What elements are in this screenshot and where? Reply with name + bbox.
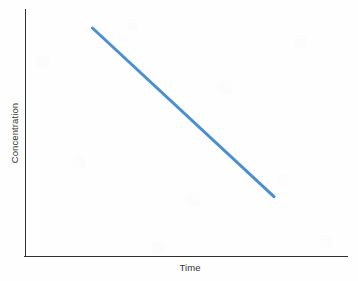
y-axis-label: Concentration	[9, 103, 20, 163]
x-axis-label: Time	[0, 262, 358, 273]
plot-area	[0, 0, 358, 281]
data-line-concentration	[92, 28, 274, 197]
chart-figure: Concentration Time	[0, 0, 358, 281]
